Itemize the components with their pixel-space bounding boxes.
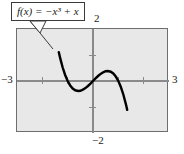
callout-formula-text: f(x) = −x³ + x (17, 5, 79, 17)
graph-figure: f(x) = −x³ + x −3 3 2 −2 (0, 0, 184, 154)
callout-label-box: f(x) = −x³ + x (11, 2, 85, 21)
callout-connector (0, 0, 184, 154)
